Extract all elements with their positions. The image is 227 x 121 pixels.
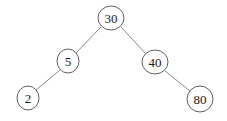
- binary-tree-diagram: 30 5 40 2 80: [0, 0, 227, 121]
- node-label: 2: [25, 91, 32, 106]
- edge-right-to-rightright: [165, 71, 190, 91]
- node-right[interactable]: 40: [142, 50, 168, 74]
- node-left-left[interactable]: 2: [17, 86, 39, 110]
- edge-root-to-right: [121, 27, 146, 54]
- node-left[interactable]: 5: [57, 49, 79, 73]
- node-label: 40: [149, 55, 162, 70]
- node-label: 5: [65, 54, 72, 69]
- edge-left-to-leftleft: [36, 70, 60, 90]
- edge-root-to-left: [76, 27, 101, 53]
- node-root[interactable]: 30: [98, 6, 124, 30]
- node-label: 80: [194, 92, 207, 107]
- tree-canvas: 30 5 40 2 80: [0, 0, 227, 121]
- node-right-right[interactable]: 80: [187, 86, 213, 112]
- node-label: 30: [105, 11, 118, 26]
